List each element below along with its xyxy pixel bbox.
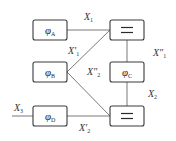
label-x1: X1	[83, 11, 93, 23]
node-equality-top	[110, 20, 144, 40]
label-x3: X3	[13, 102, 23, 114]
node-equality-bottom	[110, 106, 144, 126]
label-x2: X2	[147, 88, 157, 100]
label-x2-double-prime: X″2	[86, 66, 100, 78]
label-x2-prime: X′2	[78, 122, 90, 134]
edge-b-eq2	[67, 72, 110, 116]
factor-graph-diagram: φA φB φC φD X1 X′1 X″1 X″2 X2 X′2 X3	[0, 0, 176, 141]
label-x1-double-prime: X″1	[152, 47, 166, 59]
label-x1-prime: X′1	[67, 45, 79, 57]
